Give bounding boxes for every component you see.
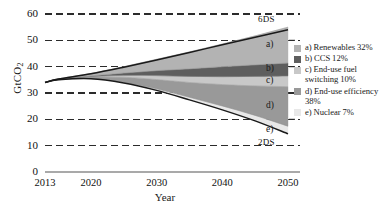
legend-swatch-icon [294, 45, 301, 52]
y-tick-label-60: 60 [12, 8, 38, 19]
wedge-label-c: c) [266, 76, 273, 86]
wedge-label-e: e) [266, 125, 273, 135]
legend-item-d[interactable]: d) End-use efficiency 38% [294, 86, 388, 106]
baseline-scenario-label: 6DS [258, 15, 275, 24]
x-tick-label-2013: 2013 [25, 178, 65, 189]
wedge-label-b: b) [266, 64, 274, 74]
legend-label: b) CCS 12% [305, 53, 348, 63]
chart-legend: a) Renewables 32%b) CCS 12%c) End-use fu… [294, 42, 388, 118]
wedge-label-d: d) [266, 101, 274, 111]
legend-label: c) End-use fuel switching 10% [305, 64, 388, 84]
chart-figure: GtCO2 Year 6050403020100 201320202030204… [0, 0, 388, 208]
legend-label: a) Renewables 32% [305, 42, 373, 52]
wedge-label-a: a) [266, 40, 273, 50]
y-tick-label-10: 10 [12, 140, 38, 151]
wedge-areas-group [45, 27, 288, 134]
legend-label: e) Nuclear 7% [305, 107, 354, 117]
x-tick-label-2020: 2020 [71, 178, 111, 189]
y-tick-label-30: 30 [12, 87, 38, 98]
y-tick-label-50: 50 [12, 34, 38, 45]
x-tick-label-2050: 2050 [268, 178, 308, 189]
target-scenario-label: 2DS [258, 138, 275, 147]
legend-item-e[interactable]: e) Nuclear 7% [294, 107, 388, 117]
legend-item-a[interactable]: a) Renewables 32% [294, 42, 388, 52]
y-tick-label-0: 0 [12, 166, 38, 177]
legend-swatch-icon [294, 109, 301, 116]
legend-item-b[interactable]: b) CCS 12% [294, 53, 388, 63]
legend-swatch-icon [294, 56, 301, 63]
x-tick-label-2030: 2030 [137, 178, 177, 189]
legend-swatch-icon [294, 67, 301, 74]
y-tick-label-20: 20 [12, 113, 38, 124]
x-tick-label-2040: 2040 [202, 178, 242, 189]
y-tick-label-40: 40 [12, 61, 38, 72]
legend-item-c[interactable]: c) End-use fuel switching 10% [294, 64, 388, 84]
legend-label: d) End-use efficiency 38% [305, 86, 388, 106]
legend-swatch-icon [294, 88, 301, 95]
